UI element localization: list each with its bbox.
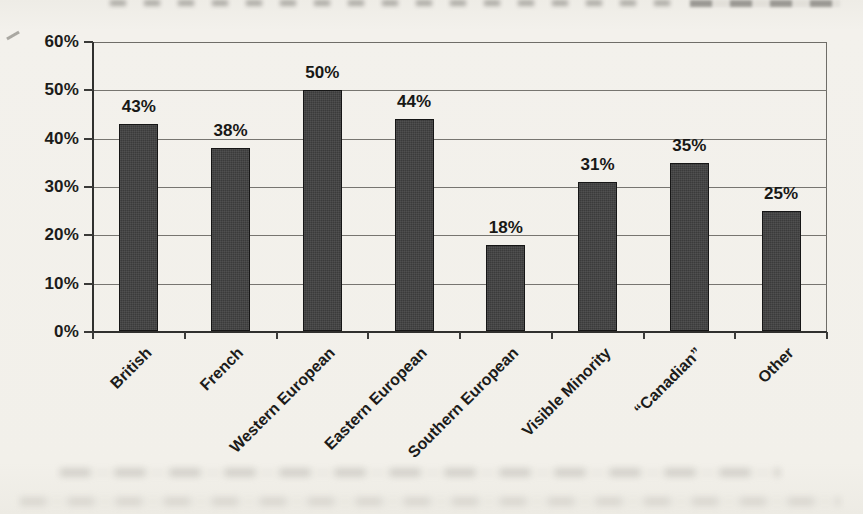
bar-6 — [670, 163, 709, 331]
bar-5 — [578, 182, 617, 331]
y-tick — [84, 138, 93, 140]
x-axis-category-label: Visible Minority — [518, 344, 614, 440]
gridline-20 — [93, 235, 827, 236]
gridline-30 — [93, 187, 827, 188]
gridline-50 — [93, 90, 827, 91]
y-tick — [84, 234, 93, 236]
bar-value-label: 38% — [196, 121, 266, 141]
bar-chart: 60%50%40%30%20%10%0%43%British38%French5… — [0, 0, 863, 514]
bar-value-label: 25% — [746, 184, 816, 204]
x-tick — [367, 332, 369, 339]
bar-value-label: 44% — [379, 92, 449, 112]
y-axis-line — [92, 42, 94, 339]
y-tick — [84, 89, 93, 91]
bar-3 — [395, 119, 434, 331]
bar-7 — [762, 211, 801, 331]
x-axis-category-label: “Canadian” — [631, 344, 706, 419]
y-tick — [84, 283, 93, 285]
bar-value-label: 31% — [563, 155, 633, 175]
bar-value-label: 50% — [287, 63, 357, 83]
x-axis-category-label: Other — [755, 344, 798, 387]
x-axis-category-label: British — [107, 344, 156, 393]
x-tick — [184, 332, 186, 339]
x-tick — [92, 332, 94, 339]
x-tick — [459, 332, 461, 339]
bar-value-label: 35% — [654, 136, 724, 156]
y-axis-tick-label: 0% — [27, 322, 79, 342]
x-tick — [826, 332, 828, 339]
y-axis-tick-label: 30% — [27, 177, 79, 197]
bar-4 — [486, 245, 525, 331]
y-axis-tick-label: 10% — [27, 274, 79, 294]
x-axis-category-label: French — [197, 344, 247, 394]
y-tick — [84, 41, 93, 43]
x-tick — [734, 332, 736, 339]
bar-1 — [211, 148, 250, 331]
y-axis-tick-label: 60% — [27, 32, 79, 52]
y-axis-tick-label: 20% — [27, 225, 79, 245]
y-axis-tick-label: 40% — [27, 129, 79, 149]
bar-value-label: 18% — [471, 218, 541, 238]
bar-0 — [119, 124, 158, 331]
x-tick — [276, 332, 278, 339]
gridline-10 — [93, 284, 827, 285]
bar-value-label: 43% — [104, 97, 174, 117]
x-tick — [551, 332, 553, 339]
y-axis-tick-label: 50% — [27, 80, 79, 100]
y-tick — [84, 186, 93, 188]
scanned-page: 60%50%40%30%20%10%0%43%British38%French5… — [0, 0, 863, 514]
bar-2 — [303, 90, 342, 331]
x-tick — [643, 332, 645, 339]
